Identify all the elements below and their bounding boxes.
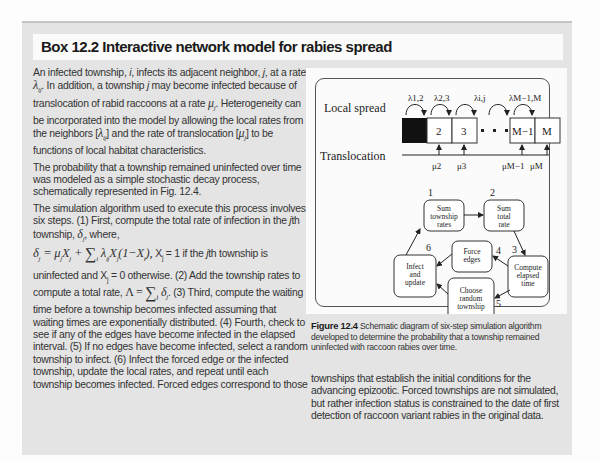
box-12-2: Box 12.2 Interactive network model for r… [22, 21, 572, 455]
cell-infected [402, 118, 427, 143]
lambda-m1-m: λM−1,M [509, 93, 541, 103]
local-spread-arcs [406, 105, 532, 116]
svg-text:rate: rate [498, 220, 510, 229]
translocation-arrows [439, 145, 547, 155]
paragraph-1: An infected township, i, infects its adj… [33, 67, 308, 158]
step-1-num: 1 [428, 187, 433, 198]
translocation-label: Translocation [320, 149, 386, 163]
cell-m-minus-1-label: M−1 [512, 125, 533, 137]
local-spread-label: Local spread [324, 101, 386, 115]
equation-delta: δj = μjXj + ∑i λijXj(1−Xi), Xj = 1 if th… [33, 245, 308, 267]
cell-m-label: M [542, 125, 552, 137]
lambda-1-2: λ1,2 [408, 93, 424, 103]
right-column-text: townships that establish the initial con… [311, 373, 569, 423]
left-column: An infected township, i, infects its adj… [33, 67, 308, 395]
paragraph-2: The probability that a township remained… [33, 162, 308, 199]
figure-diagram: Local spread Translocation λ1,2 λ2,3 λi,… [306, 68, 567, 314]
box-title: Box 12.2 Interactive network model for r… [41, 38, 392, 55]
paragraph-3-cont: uninfected and Xj = 0 otherwise. (2) Add… [33, 270, 308, 391]
figure-caption: Figure 12.4 Schematic diagram of six-ste… [311, 321, 569, 353]
lambda-i-j: λi,j [474, 93, 486, 103]
svg-text:township: township [457, 302, 485, 311]
step-2-num: 2 [490, 187, 495, 198]
box-title-bar: Box 12.2 Interactive network model for r… [33, 34, 563, 60]
figure-caption-label: Figure 12.4 [311, 320, 358, 331]
svg-text:update: update [405, 278, 426, 287]
svg-text:edges: edges [463, 255, 480, 264]
lambda-2-3: λ2,3 [434, 93, 450, 103]
mu-2: μ2 [432, 161, 441, 171]
step-3-num: 3 [512, 244, 517, 255]
step-6-num: 6 [426, 242, 431, 253]
mu-3: μ3 [457, 161, 467, 171]
svg-text:rates: rates [437, 220, 451, 229]
step-4-num: 4 [496, 245, 501, 256]
svg-text:time: time [521, 279, 535, 288]
cell-3-label: 3 [461, 125, 467, 137]
paragraph-3: The simulation algorithm used to execute… [33, 203, 308, 246]
figure-12-4-panel: Local spread Translocation λ1,2 λ2,3 λi,… [306, 68, 567, 314]
cell-2-label: 2 [436, 125, 442, 137]
step-5-num: 5 [496, 298, 501, 309]
mu-m: μM [530, 161, 543, 171]
mu-m-minus-1: μM−1 [502, 161, 524, 171]
